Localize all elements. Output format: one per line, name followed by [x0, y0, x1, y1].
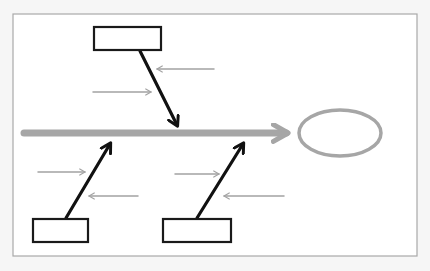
bottom-right-cause-box: [163, 219, 231, 242]
diagram-canvas: [0, 0, 430, 271]
top-cause-box: [94, 27, 161, 50]
fishbone-diagram: [0, 0, 430, 271]
effect-head-ellipse: [299, 110, 381, 156]
bottom-left-cause-box: [33, 219, 88, 242]
